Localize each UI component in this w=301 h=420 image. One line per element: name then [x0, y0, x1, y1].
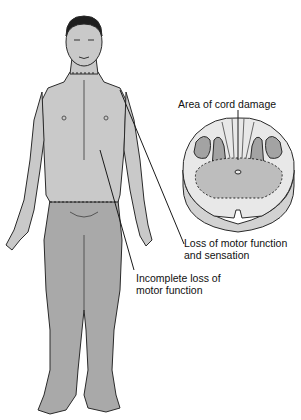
cord-damage-area: [195, 158, 282, 198]
legs: [38, 200, 122, 414]
diagram-figure: [0, 0, 301, 420]
left-arm: [6, 92, 44, 250]
label-incomplete-loss-2: motor function: [136, 284, 203, 296]
right-arm: [124, 92, 152, 246]
human-figure: [6, 16, 152, 414]
label-incomplete-loss-1: Incomplete loss of: [136, 272, 221, 284]
spinal-cord-cross-section: [183, 118, 294, 232]
label-cord-damage: Area of cord damage: [178, 98, 276, 110]
label-loss-motor-sensation-2: and sensation: [184, 249, 249, 261]
label-loss-motor-sensation-1: Loss of motor function: [184, 237, 287, 249]
